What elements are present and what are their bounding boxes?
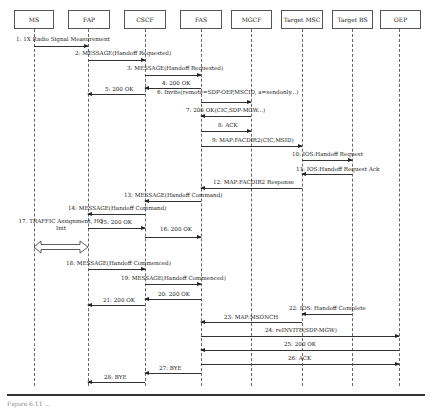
message-label-22: 22: IOS: Handoff Complete bbox=[289, 305, 366, 312]
arrow-right-icon bbox=[84, 44, 89, 48]
message-label-14: 14: MESSAGE(Handoff Command) bbox=[68, 205, 166, 212]
arrow-right-icon bbox=[298, 144, 303, 148]
lifeline-fas bbox=[201, 29, 202, 386]
arrow-right-icon bbox=[395, 362, 400, 366]
arrow-left-icon bbox=[200, 186, 205, 190]
message-arrow-14 bbox=[88, 214, 145, 215]
arrow-left-icon bbox=[144, 86, 149, 90]
arrow-left-icon bbox=[87, 92, 92, 96]
figure-caption: Figure 6.11 ... bbox=[7, 400, 50, 407]
entity-box-target-bs: Target BS bbox=[332, 10, 373, 29]
message-label-20: 20: 200 OK bbox=[158, 291, 190, 298]
entity-box-oep: OEP bbox=[380, 10, 421, 29]
message-label-24: 24: reINVITE(SDP-MGW) bbox=[265, 327, 337, 334]
message-label-7: 7: 200 OK(CIC,SDP-MGW...) bbox=[186, 107, 265, 114]
arrow-left-icon bbox=[200, 320, 205, 324]
lifeline-mgcf bbox=[251, 29, 252, 386]
message-label-5: 5: 200 OK bbox=[105, 86, 133, 93]
sequence-diagram: MSFAPCSCFFASMGCFTarget MSCTarget BSOEP1:… bbox=[0, 0, 431, 409]
bottom-rule bbox=[7, 394, 425, 396]
arrow-right-icon bbox=[247, 100, 252, 104]
message-arrow-22 bbox=[302, 314, 352, 315]
note-traffic-assignment: 17. TRAFFIC Assignment, HO Init bbox=[14, 218, 108, 232]
message-label-19: 19: MESSAGE(Handoff Commenced) bbox=[121, 275, 226, 282]
message-arrow-25 bbox=[201, 350, 399, 351]
message-label-21: 21: 200 OK bbox=[103, 297, 135, 304]
arrow-left-icon bbox=[144, 297, 149, 301]
message-label-4: 4: 200 OK bbox=[162, 80, 190, 87]
entity-box-ms: MS bbox=[14, 10, 54, 29]
message-arrow-7 bbox=[201, 116, 251, 117]
message-label-16: 16: 200 OK bbox=[160, 226, 192, 233]
arrow-right-icon bbox=[141, 226, 146, 230]
message-arrow-1 bbox=[34, 46, 88, 47]
message-arrow-18 bbox=[88, 269, 145, 270]
message-arrow-3 bbox=[145, 75, 201, 76]
message-label-10: 10: IOS:Handoff Request bbox=[292, 151, 363, 158]
message-arrow-10 bbox=[302, 160, 352, 161]
message-label-18: 18: MESSAGE(Handoff Commenced) bbox=[66, 260, 171, 267]
message-arrow-20 bbox=[145, 299, 201, 300]
message-arrow-2 bbox=[88, 60, 145, 61]
message-arrow-19 bbox=[145, 284, 201, 285]
message-label-28: 28: BYE bbox=[104, 374, 127, 381]
message-arrow-26 bbox=[201, 364, 399, 365]
arrow-right-icon bbox=[348, 158, 353, 162]
entity-box-fap: FAP bbox=[68, 10, 110, 29]
message-arrow-23 bbox=[201, 322, 302, 323]
message-label-6: 6: Invite(remote=SDP-OEP,MSCID, a=sendon… bbox=[157, 89, 298, 96]
message-label-27: 27: BYE bbox=[159, 365, 182, 372]
message-arrow-13 bbox=[145, 201, 201, 202]
message-arrow-9 bbox=[201, 146, 302, 147]
arrow-left-icon bbox=[301, 312, 306, 316]
message-arrow-8 bbox=[201, 131, 251, 132]
message-arrow-12 bbox=[201, 188, 302, 189]
entity-box-mgcf: MGCF bbox=[231, 10, 272, 29]
lifeline-oep bbox=[399, 29, 400, 386]
message-arrow-11 bbox=[302, 174, 352, 175]
message-arrow-5 bbox=[88, 94, 145, 95]
message-arrow-6 bbox=[201, 102, 251, 103]
lifeline-target-bs bbox=[352, 29, 353, 386]
arrow-right-icon bbox=[247, 129, 252, 133]
arrow-left-icon bbox=[200, 114, 205, 118]
message-label-8: 8: ACK bbox=[218, 122, 238, 129]
message-label-1: 1: 1X Radio Signal Measurement bbox=[16, 36, 110, 43]
arrow-right-icon bbox=[197, 73, 202, 77]
message-label-9: 9: MAP:FACDIR2(CIC,MSID) bbox=[212, 137, 294, 144]
entity-box-target-msc: Target MSC bbox=[281, 10, 323, 29]
arrow-left-icon bbox=[200, 348, 205, 352]
message-arrow-27 bbox=[145, 373, 201, 374]
message-label-12: 12: MAP:FACDIR2 Response bbox=[213, 179, 294, 186]
lifeline-ms bbox=[34, 29, 35, 386]
arrow-left-icon bbox=[144, 371, 149, 375]
double-arrow-icon bbox=[33, 240, 89, 254]
message-label-25: 25: 200 OK bbox=[284, 341, 316, 348]
message-arrow-21 bbox=[88, 305, 145, 306]
message-label-26: 26: ACK bbox=[288, 355, 311, 362]
arrow-right-icon bbox=[197, 235, 202, 239]
entity-box-cscf: CSCF bbox=[124, 10, 166, 29]
message-label-3: 3: MESSAGE(Handoff Requested) bbox=[127, 65, 223, 72]
arrow-right-icon bbox=[141, 58, 146, 62]
arrow-left-icon bbox=[144, 199, 149, 203]
message-label-2: 2: MESSAGE(Handoff Requested) bbox=[75, 50, 171, 57]
message-arrow-28 bbox=[88, 382, 145, 383]
message-label-23: 23: MAP:MSONCH bbox=[224, 314, 278, 321]
message-arrow-24 bbox=[201, 336, 399, 337]
arrow-left-icon bbox=[87, 303, 92, 307]
arrow-left-icon bbox=[87, 380, 92, 384]
message-label-11: 11: IOS:Handoff Request Ack bbox=[296, 166, 379, 173]
arrow-left-icon bbox=[87, 212, 92, 216]
message-label-13: 13: MESSAGE(Handoff Command) bbox=[124, 192, 222, 199]
arrow-right-icon bbox=[395, 334, 400, 338]
message-arrow-16 bbox=[145, 237, 201, 238]
arrow-right-icon bbox=[141, 267, 146, 271]
arrow-right-icon bbox=[197, 282, 202, 286]
entity-box-fas: FAS bbox=[180, 10, 222, 29]
